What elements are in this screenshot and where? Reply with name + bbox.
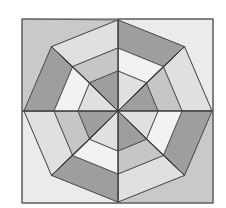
octagon-diagram [0,0,226,208]
